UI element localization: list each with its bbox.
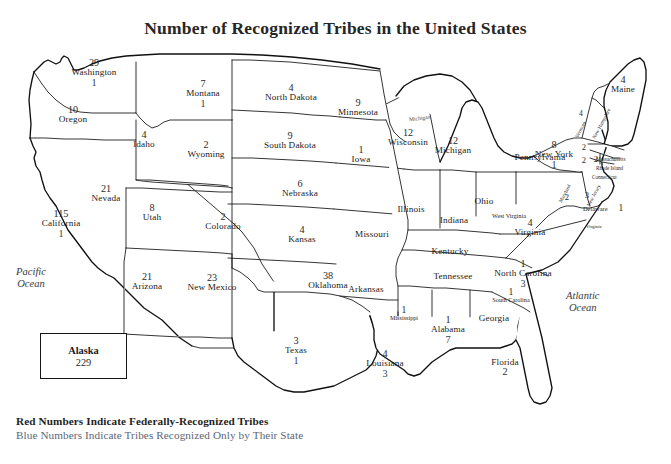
state-name: West Virginia bbox=[492, 213, 526, 219]
ocean-line-2: Ocean bbox=[17, 278, 45, 289]
state-name: Minnesota bbox=[327, 108, 389, 117]
state-only-count: 1 bbox=[175, 99, 231, 109]
federal-count: 2 bbox=[577, 143, 591, 152]
state-label-virginia: 4 Virginia bbox=[505, 218, 555, 238]
ocean-label-atlantic: Atlantic Ocean bbox=[566, 290, 600, 314]
connecticut-count: 2 bbox=[577, 156, 591, 165]
state-label-idaho: 4 Idaho bbox=[122, 130, 166, 150]
state-label-rhode-island: Rhode Island bbox=[596, 166, 646, 171]
state-name: Rhode Island bbox=[596, 166, 646, 171]
legend-federal-line: Red Numbers Indicate Federally-Recognize… bbox=[16, 415, 303, 427]
state-label-new-hampshire: New Hampshire bbox=[583, 112, 621, 128]
federal-count: 2 bbox=[482, 367, 528, 377]
state-name: Virginia bbox=[505, 228, 555, 237]
state-name: Idaho bbox=[122, 140, 166, 149]
delaware-count: 1 bbox=[614, 203, 628, 213]
state-name: Wyoming bbox=[178, 150, 234, 159]
state-name: Indiana bbox=[432, 216, 476, 225]
state-name: Mississippi bbox=[382, 315, 426, 321]
state-label-louisiana: 4 Louisiana 3 bbox=[358, 349, 412, 379]
state-name: Iowa bbox=[339, 155, 383, 164]
state-name: Connecticut bbox=[592, 175, 642, 180]
legend: Red Numbers Indicate Federally-Recognize… bbox=[16, 415, 303, 441]
state-label-illinois: Illinois bbox=[390, 205, 432, 214]
maryland-count: 2 bbox=[560, 193, 574, 202]
state-label-michigan: 12 Michigan bbox=[425, 136, 481, 156]
state-label-tennessee: Tennessee bbox=[424, 272, 482, 281]
state-name: Kansas bbox=[276, 235, 328, 244]
state-label-arkansas: Arkansas bbox=[337, 285, 395, 294]
ocean-label-pacific: Pacific Ocean bbox=[16, 266, 46, 290]
state-name: Ohio bbox=[466, 197, 502, 206]
state-name: Massachusetts bbox=[596, 157, 646, 162]
state-only-count: 1 bbox=[272, 356, 320, 366]
federal-count: 2 bbox=[577, 156, 591, 165]
state-name: Arizona bbox=[121, 282, 173, 291]
state-label-maine: 4 Maine bbox=[602, 75, 644, 95]
state-name: Utah bbox=[130, 213, 174, 222]
state-label-georgia: Georgia bbox=[470, 314, 518, 323]
state-name: Missouri bbox=[344, 230, 400, 239]
state-name: Colorado bbox=[196, 222, 250, 231]
state-label-florida: Florida 2 bbox=[482, 358, 528, 378]
state-label-montana: 7 Montana 1 bbox=[175, 79, 231, 109]
state-label-massachusetts: Massachusetts bbox=[596, 157, 646, 162]
state-label-indiana: Indiana bbox=[432, 216, 476, 225]
state-only-count: 3 bbox=[487, 279, 559, 289]
state-name: South Carolina bbox=[482, 297, 540, 303]
state-name: New Mexico bbox=[178, 283, 246, 292]
rhode-island-count: 2 bbox=[589, 155, 603, 164]
state-name: Nebraska bbox=[271, 189, 329, 198]
state-name: Michigan bbox=[425, 146, 481, 155]
state-label-nevada: 21 Nevada bbox=[80, 184, 132, 204]
state-label-new-mexico: 23 New Mexico bbox=[178, 273, 246, 293]
state-only-count: 3 bbox=[358, 369, 412, 379]
state-only-count: 1 bbox=[30, 229, 92, 239]
state-label-washington: 29 Washington 1 bbox=[60, 58, 128, 88]
state-label-west-virginia: West Virginia bbox=[492, 213, 526, 219]
state-label-oregon: 10 Oregon bbox=[45, 105, 101, 125]
state-label-connecticut: Connecticut bbox=[592, 175, 642, 180]
state-name: Virginia bbox=[586, 225, 624, 230]
state-name: Maine bbox=[602, 85, 644, 94]
state-only-count: 1 bbox=[528, 160, 580, 170]
map-figure: Number of Recognized Tribes in the Unite… bbox=[0, 0, 671, 464]
state-name: Tennessee bbox=[424, 272, 482, 281]
state-label-colorado: 2 Colorado bbox=[196, 212, 250, 232]
state-label-missouri: Missouri bbox=[344, 230, 400, 239]
ocean-line-1: Pacific bbox=[16, 266, 46, 277]
state-label-south-dakota: 9 South Dakota bbox=[253, 131, 327, 151]
state-label-south-carolina: 1 South Carolina bbox=[482, 287, 540, 303]
state-only-count: 7 bbox=[424, 335, 472, 345]
state-label-texas: 3 Texas 1 bbox=[272, 336, 320, 366]
ocean-line-2: Ocean bbox=[569, 302, 597, 313]
massachusetts-count: 2 bbox=[577, 143, 591, 152]
state-name: South Dakota bbox=[253, 141, 327, 150]
state-name: Nevada bbox=[80, 194, 132, 203]
state-label-kentucky: Kentucky bbox=[425, 247, 475, 256]
state-label-mississippi: 1 Mississippi bbox=[382, 305, 426, 321]
state-label-north-carolina: 1 North Carolina 3 bbox=[487, 259, 559, 289]
new-jersey-count: 3 bbox=[580, 191, 594, 200]
state-only-count: 1 bbox=[60, 78, 128, 88]
state-label-virginia-coast: Virginia bbox=[586, 225, 624, 230]
state-label-new-york: 8 New York 1 bbox=[528, 140, 580, 170]
state-name: Alaska bbox=[68, 345, 99, 356]
state-label-california: 115 California 1 bbox=[30, 209, 92, 239]
state-label-minnesota: 9 Minnesota bbox=[327, 98, 389, 118]
state-name: Oregon bbox=[45, 115, 101, 124]
federal-count: 3 bbox=[580, 191, 594, 200]
alaska-inset: Alaska 229 bbox=[40, 333, 127, 379]
state-label-iowa: 1 Iowa bbox=[339, 145, 383, 165]
federal-count: 2 bbox=[589, 155, 603, 164]
state-label-wyoming: 2 Wyoming bbox=[178, 140, 234, 160]
federal-count: 2 bbox=[560, 193, 574, 202]
ocean-line-1: Atlantic bbox=[566, 290, 600, 301]
state-name: Arkansas bbox=[337, 285, 395, 294]
state-label-north-dakota: 4 North Dakota bbox=[255, 83, 327, 103]
state-label-arizona: 21 Arizona bbox=[121, 272, 173, 292]
state-name: North Dakota bbox=[255, 93, 327, 102]
legend-state-line: Blue Numbers Indicate Tribes Recognized … bbox=[16, 429, 303, 441]
state-label-ohio: Ohio bbox=[466, 197, 502, 206]
state-name: Kentucky bbox=[425, 247, 475, 256]
